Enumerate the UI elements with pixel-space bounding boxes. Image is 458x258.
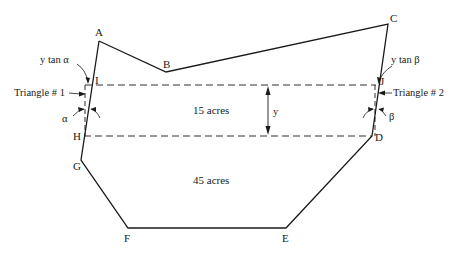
vertex-a: A <box>95 26 103 38</box>
triangle2-label: Triangle # 2 <box>393 87 444 98</box>
beta-arrow-right-icon <box>379 108 385 113</box>
vertex-f: F <box>124 232 130 244</box>
y-arrow-down-icon <box>266 126 271 135</box>
vertex-b: B <box>163 58 170 70</box>
beta-label: β <box>389 111 394 122</box>
vertex-i: I <box>95 74 99 86</box>
vertex-e: E <box>282 232 289 244</box>
vertex-d: D <box>375 131 383 143</box>
vertex-h: H <box>73 130 81 142</box>
parcel-boundary <box>81 24 388 228</box>
y-arrow-up-icon <box>266 86 271 95</box>
y-tan-alpha-label: y tan α <box>40 54 69 65</box>
area-lower-label: 45 acres <box>193 174 229 186</box>
y-tan-alpha-arrow-icon <box>86 77 91 84</box>
y-label: y <box>273 106 279 117</box>
alpha-arrow-left-icon <box>78 107 85 112</box>
beta-arrow-left-icon <box>368 107 374 112</box>
parcel-diagram: y A B C I J H D G F E 15 acres 45 acres … <box>0 0 458 258</box>
triangle2-arrow-icon <box>378 91 385 96</box>
triangle1-leader <box>69 93 80 94</box>
alpha-label: α <box>62 113 68 124</box>
vertex-c: C <box>390 12 397 24</box>
y-tan-beta-label: y tan β <box>391 54 420 65</box>
area-upper-label: 15 acres <box>193 104 229 116</box>
vertex-g: G <box>73 160 81 172</box>
triangle1-label: Triangle # 1 <box>14 87 65 98</box>
